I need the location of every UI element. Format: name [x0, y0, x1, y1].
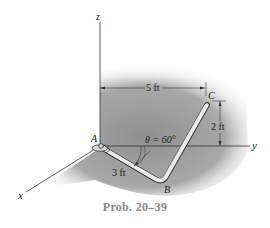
dimension-2ft-label: 2 ft [211, 122, 225, 132]
point-C-label: C [208, 91, 215, 101]
z-axis-label: z [96, 12, 100, 22]
dimension-3ft-label: 3 ft [112, 168, 126, 178]
figure: z y x A B C 5 ft 2 ft 3 ft θ = 60° Prob.… [0, 0, 270, 228]
y-axis-label: y [252, 140, 257, 151]
point-A-label: A [91, 134, 97, 144]
dimension-5ft-label: 5 ft [146, 83, 160, 93]
figure-caption: Prob. 20–39 [0, 200, 270, 215]
point-B-label: B [164, 185, 170, 195]
diagram-canvas [0, 0, 270, 228]
angle-theta-label: θ = 60° [145, 135, 176, 145]
